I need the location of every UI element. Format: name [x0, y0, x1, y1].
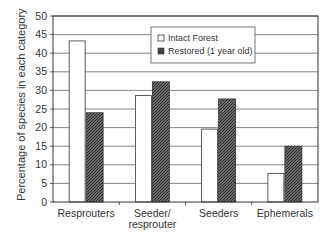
legend: Intact ForestRestored (1 year old) — [151, 27, 255, 63]
bar-intact-forest — [135, 96, 151, 202]
y-tick-label: 50 — [35, 10, 47, 22]
y-tick-label: 5 — [41, 177, 47, 189]
x-tick-label: Seeders — [199, 207, 238, 219]
y-tick-label: 35 — [35, 65, 47, 77]
legend-label-intact: Intact Forest — [168, 33, 219, 43]
y-tick-label: 10 — [35, 158, 47, 170]
bar-restored — [285, 146, 302, 202]
legend-swatch-intact — [158, 35, 164, 41]
bar-chart: Percentage of species in each category 0… — [0, 0, 336, 242]
legend-label-restored: Restored (1 year old) — [168, 46, 253, 56]
bar-intact-forest — [202, 129, 218, 202]
legend-swatch-restored — [158, 48, 164, 54]
y-tick-label: 30 — [35, 84, 47, 96]
y-tick-label: 20 — [35, 121, 47, 133]
y-tick-label: 40 — [35, 47, 47, 59]
bar-restored — [219, 99, 236, 202]
x-tick-label: Resprouters — [58, 207, 115, 219]
y-tick-label: 0 — [41, 196, 47, 208]
y-tick-label: 25 — [35, 103, 47, 115]
y-tick-label: 45 — [35, 28, 47, 40]
bar-restored — [152, 82, 169, 202]
bar-intact-forest — [69, 41, 85, 202]
bar-restored — [86, 113, 103, 202]
y-tick-label: 15 — [35, 140, 47, 152]
bar-intact-forest — [268, 173, 284, 202]
x-tick-label: resprouter — [128, 218, 176, 230]
x-tick-label: Ephemerals — [257, 207, 313, 219]
chart-plot: 05101520253035404550ResproutersSeeder/re… — [0, 0, 336, 242]
y-axis-label: Percentage of species in each category — [15, 11, 27, 201]
